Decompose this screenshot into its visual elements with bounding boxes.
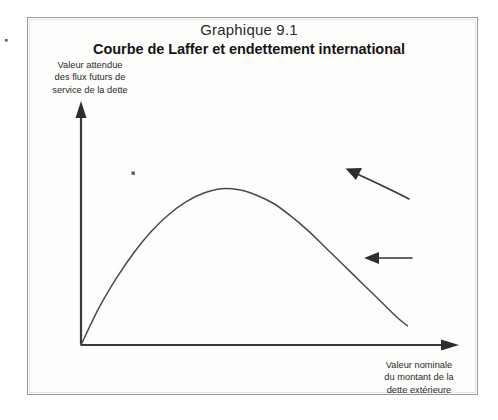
upper-annotation-arrow-line: [353, 172, 409, 199]
laffer-curve-line: [81, 189, 407, 345]
upper-annotation-arrowhead-icon: [346, 168, 363, 180]
scan-speck-margin: [5, 39, 8, 42]
y-axis-arrowhead-icon: [76, 101, 87, 118]
laffer-curve-plot: [0, 0, 498, 420]
lower-annotation-arrowhead-icon: [364, 252, 379, 264]
figure-page: Graphique 9.1 Courbe de Laffer et endett…: [0, 0, 498, 420]
scan-speck: [132, 172, 135, 175]
x-axis-arrowhead-icon: [441, 340, 459, 351]
